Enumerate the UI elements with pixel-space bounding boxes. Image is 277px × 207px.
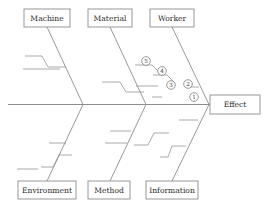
fishbone-diagram-svg: Machine Material Worker [0,0,277,207]
marker-3[interactable]: 3 [167,81,176,90]
branch-worker[interactable]: Worker [150,9,209,105]
category-box-method[interactable]: Method [88,181,130,199]
marker-5-leader-line [135,65,160,73]
marker-2[interactable]: 2 [184,80,193,89]
marker-1[interactable]: 1 [190,93,199,102]
marker-1-label: 1 [192,94,196,100]
marker-group: 5 4 3 2 1 [135,57,198,102]
branch-environment[interactable]: Environment [17,105,83,200]
marker-5-label: 5 [144,58,148,64]
marker-2-label: 2 [186,81,190,87]
marker-4-label: 4 [160,68,164,74]
category-box-environment[interactable]: Environment [18,181,76,199]
category-box-worker[interactable]: Worker [150,9,194,27]
branch-method[interactable]: Method [88,105,146,200]
branch-worker-bone [172,27,209,105]
branch-information-bone [172,105,209,182]
fishbone-diagram-canvas: Machine Material Worker [0,0,277,207]
category-box-environment-label: Environment [22,186,72,195]
marker-4[interactable]: 4 [158,67,167,76]
category-box-worker-label: Worker [158,14,187,23]
branch-information-subbone-2 [160,146,186,157]
effect-box-label: Effect [224,100,247,109]
category-box-material[interactable]: Material [88,9,132,27]
category-box-information-label: Information [149,186,195,195]
category-box-information[interactable]: Information [146,181,198,199]
branch-machine-bone [47,27,83,105]
effect-box[interactable]: Effect [210,95,260,114]
category-box-machine-label: Machine [30,14,64,23]
marker-3-label: 3 [169,82,173,88]
branch-machine-subbone-1 [25,56,66,67]
category-box-method-label: Method [94,186,124,195]
branch-information[interactable]: Information [134,105,209,200]
branch-material-bone [110,27,146,105]
branch-information-subbone-1 [134,133,169,145]
marker-5[interactable]: 5 [142,57,151,66]
branch-machine[interactable]: Machine [23,9,83,105]
category-box-material-label: Material [94,14,127,23]
category-box-machine[interactable]: Machine [24,9,70,27]
